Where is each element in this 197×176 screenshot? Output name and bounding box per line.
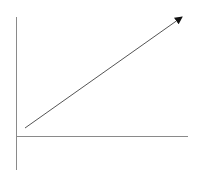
diagram-canvas: [0, 0, 197, 176]
diagonal-arrow: [25, 17, 182, 128]
